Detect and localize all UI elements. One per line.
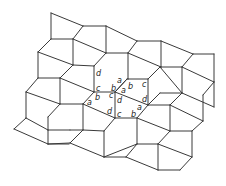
tile-edge [38, 52, 73, 65]
tile-edge [180, 157, 192, 170]
vertex-label: b [128, 82, 133, 91]
vertex-label: c [117, 110, 122, 119]
tile-edge [60, 78, 94, 92]
vertex-label: d [117, 96, 123, 105]
tile-edge [137, 118, 170, 131]
vertex-labels: dcbaabcbacddadcb [87, 69, 148, 119]
tile-edge [38, 39, 51, 52]
vertex-label: d [96, 69, 102, 78]
tile-edge [48, 104, 60, 117]
tile-edge [73, 65, 94, 66]
tile-edge [158, 144, 192, 157]
tile-edge [182, 54, 193, 67]
tile-edge [51, 13, 83, 26]
vertex-label: d [107, 107, 113, 116]
tile-edge [83, 130, 104, 131]
vertex-label: a [117, 76, 122, 85]
tile-edge [104, 118, 115, 131]
vertex-label: a [87, 98, 92, 107]
tile-edge [170, 93, 182, 105]
vertex-label: b [131, 110, 136, 119]
tiling-diagram: dcbaabcbacddadcb [0, 0, 226, 186]
vertex-label: c [109, 91, 114, 100]
vertex-label: a [121, 86, 126, 95]
tile-edge [106, 26, 137, 41]
vertex-label: b [95, 93, 100, 102]
tile-edge [14, 118, 26, 129]
tile-edge [126, 157, 158, 170]
tile-edge [161, 41, 193, 54]
tile-edge [73, 39, 106, 53]
tile-edge [182, 67, 214, 82]
tile-edge [170, 105, 203, 121]
tile-edge [26, 78, 38, 92]
vertex-label: d [142, 95, 148, 104]
vertex-label: c [142, 80, 147, 89]
tile-edge [192, 121, 203, 131]
tile-edge [26, 118, 48, 130]
tile-edge [14, 129, 48, 144]
tile-edge [70, 130, 83, 143]
tile-edge [94, 53, 106, 66]
tile-edge [60, 65, 73, 78]
tile-edge [128, 41, 137, 53]
vertex-label: a [137, 103, 142, 112]
vertex-label: c [96, 84, 101, 93]
tile-edge [158, 131, 170, 144]
tile-edge [70, 143, 104, 157]
tile-edge [73, 26, 83, 39]
tile-edge [148, 93, 160, 105]
tile-edge [160, 67, 182, 93]
tile-edge [182, 93, 214, 107]
tile-edge [203, 82, 214, 95]
tile-edge [128, 53, 161, 67]
tile-edge [148, 67, 160, 79]
tile-edge [26, 92, 60, 104]
